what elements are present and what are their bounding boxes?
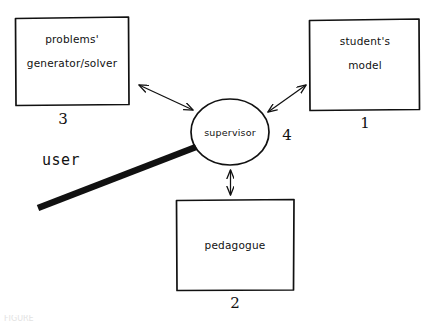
- index-number-1: 1: [350, 114, 380, 132]
- index-number-3: 3: [48, 110, 78, 128]
- index-number-2: 2: [220, 294, 250, 312]
- connector-supervisor-students-model: [268, 85, 306, 112]
- node-pedagogue-label: pedagogue: [176, 238, 294, 253]
- index-number-4: 4: [275, 126, 299, 144]
- problems-line2: generator/solver: [15, 56, 129, 71]
- problems-line1: problems': [15, 32, 129, 47]
- node-problems-generator-solver-label: problems' generator/solver: [15, 32, 129, 71]
- node-user-label: user: [42, 151, 80, 169]
- students-model-line1: student's: [310, 34, 420, 49]
- students-model-line2: model: [310, 58, 420, 73]
- node-supervisor-label: supervisor: [191, 126, 269, 140]
- connector-supervisor-problems: [139, 85, 193, 110]
- figure-caption-partial: FIGURE: [4, 315, 100, 322]
- node-students-model-label: student's model: [310, 34, 420, 73]
- figure-canvas: problems' generator/solver 3 student's m…: [0, 0, 433, 323]
